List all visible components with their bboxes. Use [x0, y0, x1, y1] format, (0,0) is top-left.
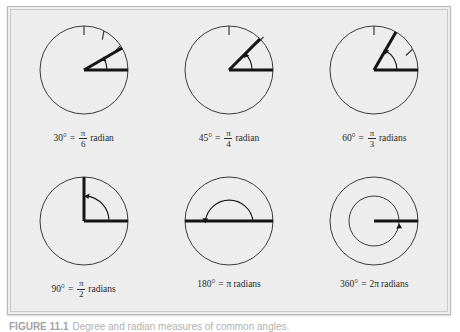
- panel-angle-60: 60° = π 3 radians: [302, 10, 447, 161]
- caption-angle-360: 360° = 2π radians: [340, 280, 408, 290]
- radian-coefficient: 2π: [370, 280, 380, 290]
- degree-value: 45°: [199, 134, 212, 144]
- radian-fraction: π 3: [368, 129, 376, 149]
- caption-angle-60: 60° = π 3 radians: [342, 129, 406, 149]
- figure-plate-inner: 30° = π 6 radian: [10, 9, 448, 312]
- diagram-angle-45: [170, 16, 288, 128]
- panel-angle-45: 45° = π 4 radian: [156, 10, 301, 161]
- angle-arrowhead-icon: [397, 223, 403, 228]
- caption-angle-90: 90° = π 2 radians: [52, 280, 116, 300]
- degree-value: 360°: [340, 280, 358, 290]
- radian-fraction: π 4: [224, 129, 232, 149]
- diagram-angle-360: [315, 167, 433, 279]
- radian-unit-label: radians: [233, 280, 260, 290]
- radian-unit-label: radian: [90, 134, 114, 144]
- angle-arc: [86, 196, 109, 221]
- diagram-angle-180: [170, 167, 288, 279]
- equals-sign: =: [218, 280, 223, 290]
- degree-value: 60°: [342, 134, 355, 144]
- arc-tick-icon: [100, 31, 106, 40]
- panel-angle-360: 360° = 2π radians: [302, 161, 447, 312]
- fraction-denominator: 3: [369, 140, 376, 149]
- caption-angle-45: 45° = π 4 radian: [199, 129, 259, 149]
- angle-arc: [386, 50, 398, 70]
- diagram-angle-90: [25, 167, 143, 279]
- diagram-grid: 30° = π 6 radian: [11, 10, 447, 311]
- radian-fraction: π 2: [77, 279, 85, 299]
- panel-angle-180: 180° = π radians: [156, 161, 301, 312]
- radian-unit-label: radian: [235, 134, 259, 144]
- fraction-numerator: π: [225, 129, 232, 138]
- equals-sign: =: [70, 134, 75, 144]
- arc-tick-icon: [405, 50, 414, 56]
- degree-value: 180°: [197, 280, 215, 290]
- panel-angle-90: 90° = π 2 radians: [11, 161, 156, 312]
- radian-fraction: π 6: [79, 129, 87, 149]
- fraction-denominator: 6: [80, 140, 87, 149]
- fraction-numerator: π: [369, 129, 376, 138]
- diagram-angle-60: [315, 16, 433, 128]
- radian-unit-label: radians: [379, 134, 406, 144]
- fraction-numerator: π: [80, 129, 87, 138]
- equals-sign: =: [359, 134, 364, 144]
- figure-plate: 30° = π 6 radian: [7, 6, 451, 315]
- caption-angle-180: 180° = π radians: [197, 280, 261, 290]
- angle-arc: [205, 200, 253, 221]
- degree-value: 30°: [53, 134, 66, 144]
- figure-caption: FIGURE 11.1Degree and radian measures of…: [9, 320, 439, 332]
- figure-number: FIGURE 11.1: [9, 321, 68, 332]
- equals-sign: =: [361, 280, 366, 290]
- fraction-denominator: 2: [78, 290, 85, 299]
- fraction-numerator: π: [78, 279, 85, 288]
- diagram-angle-30: [25, 16, 143, 128]
- caption-angle-30: 30° = π 6 radian: [53, 129, 113, 149]
- fraction-denominator: 4: [225, 140, 232, 149]
- radian-unit-label: radians: [381, 280, 408, 290]
- figure-caption-text: Degree and radian measures of common ang…: [72, 321, 289, 332]
- figure-page: 30° = π 6 radian: [0, 0, 460, 332]
- panel-angle-30: 30° = π 6 radian: [11, 10, 156, 161]
- equals-sign: =: [215, 134, 220, 144]
- equals-sign: =: [68, 285, 73, 295]
- radian-coefficient: π: [227, 280, 232, 290]
- radian-unit-label: radians: [88, 285, 115, 295]
- degree-value: 90°: [52, 285, 65, 295]
